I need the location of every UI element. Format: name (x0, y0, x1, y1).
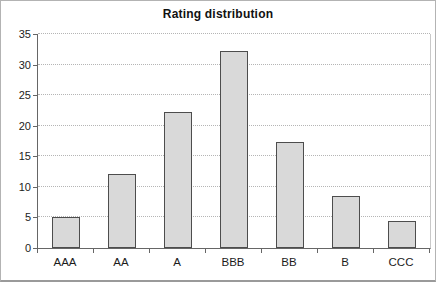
bar-AAA (52, 217, 80, 248)
x-axis-tick-4 (261, 249, 262, 253)
x-axis-label-CCC: CCC (373, 256, 429, 268)
bar-BBB (220, 51, 248, 248)
plot-area (37, 34, 431, 249)
x-axis-label-AA: AA (93, 256, 149, 268)
x-axis-label-BBB: BBB (205, 256, 261, 268)
x-axis-label-B: B (317, 256, 373, 268)
x-axis-tick-5 (317, 249, 318, 253)
x-axis-tick-6 (373, 249, 374, 253)
x-axis-label-AAA: AAA (37, 256, 93, 268)
x-axis-tick-3 (205, 249, 206, 253)
chart-title: Rating distribution (1, 7, 435, 21)
x-axis-tick-2 (149, 249, 150, 253)
bar-B (332, 196, 360, 248)
bar-BB (276, 142, 304, 248)
y-axis-label-25: 25 (7, 89, 31, 101)
y-axis-label-35: 35 (7, 28, 31, 40)
chart-figure: Rating distribution 05101520253035AAAAAA… (0, 0, 436, 282)
x-axis-tick-1 (93, 249, 94, 253)
y-axis-tick-30 (33, 65, 37, 66)
bar-A (164, 112, 192, 248)
y-axis-label-10: 10 (7, 181, 31, 193)
x-axis-label-A: A (149, 256, 205, 268)
y-axis-label-5: 5 (7, 211, 31, 223)
y-axis-label-15: 15 (7, 150, 31, 162)
y-axis-label-30: 30 (7, 59, 31, 71)
y-axis-tick-25 (33, 95, 37, 96)
bar-CCC (388, 221, 416, 248)
x-axis-tick-0 (37, 249, 38, 253)
y-axis-label-20: 20 (7, 120, 31, 132)
y-axis-tick-5 (33, 217, 37, 218)
bar-AA (108, 174, 136, 248)
y-axis-label-0: 0 (7, 242, 31, 254)
y-axis-tick-35 (33, 34, 37, 35)
y-axis-tick-10 (33, 187, 37, 188)
gridline-y-35 (38, 33, 430, 34)
y-axis-tick-20 (33, 126, 37, 127)
y-axis-tick-15 (33, 156, 37, 157)
x-axis-tick-7 (429, 249, 430, 253)
x-axis-label-BB: BB (261, 256, 317, 268)
